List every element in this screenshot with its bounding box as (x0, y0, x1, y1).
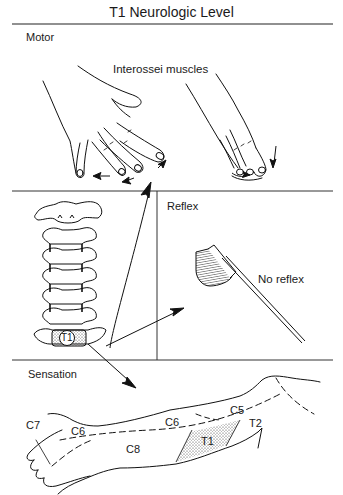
dermatome-c7-label: C7 (26, 420, 40, 431)
hand-adduction-illustration (186, 74, 266, 180)
motor-section-label: Motor (26, 32, 54, 43)
interossei-muscles-label: Interossei muscles (113, 64, 208, 76)
dermatome-c6-forearm-label: C6 (165, 417, 179, 428)
t1-vertebra-label: T1 (61, 333, 73, 343)
cervical-spine-illustration (34, 202, 106, 346)
sensation-section-label: Sensation (28, 369, 77, 380)
pathway-arrows (88, 182, 184, 388)
reflex-section-label: Reflex (167, 201, 198, 212)
dermatome-t2-label: T2 (249, 418, 262, 429)
abduction-arrows (93, 160, 166, 184)
dermatome-t1-label: T1 (201, 436, 214, 447)
dermatome-c6-hand-label: C6 (71, 426, 85, 437)
reflex-hammer-illustration (196, 245, 305, 343)
no-reflex-label: No reflex (258, 274, 304, 286)
page-title: T1 Neurologic Level (0, 5, 343, 19)
dermatome-c5-label: C5 (230, 405, 244, 416)
dermatome-c8-label: C8 (126, 444, 140, 455)
hand-abduction-illustration (43, 66, 165, 178)
